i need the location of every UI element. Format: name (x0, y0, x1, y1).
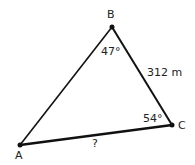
vertex-a-label: A (15, 150, 23, 161)
vertex-b-label: B (107, 9, 115, 20)
side-ac-unknown: ? (92, 138, 98, 149)
vertex-b-dot (110, 25, 115, 30)
side-bc-length: 312 m (147, 67, 182, 78)
angle-c-label: 54° (143, 113, 163, 124)
angle-b-label: 47° (101, 46, 121, 57)
side-ab (20, 27, 112, 145)
vertex-a-dot (18, 143, 23, 148)
vertex-c-dot (170, 123, 175, 128)
vertex-c-label: C (178, 120, 186, 131)
